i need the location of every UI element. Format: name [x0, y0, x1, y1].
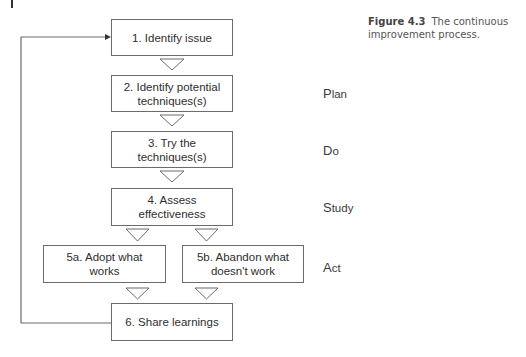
- step-assess-effectiveness: 4. Assess effectiveness: [111, 188, 233, 226]
- step-identify-issue: 1. Identify issue: [111, 19, 233, 56]
- down-arrow-1-2: [160, 59, 184, 70]
- phase-study: Study: [323, 200, 353, 215]
- figure-caption: Figure 4.3The continuous improvement pro…: [368, 15, 526, 41]
- down-arrow-2-3: [160, 115, 184, 126]
- down-arrow-4-5b: [195, 229, 218, 241]
- step-try-techniques: 3. Try the techniques(s): [111, 131, 233, 168]
- step-label: 5a. Adopt what works: [50, 250, 159, 278]
- phase-act: Act: [323, 260, 341, 275]
- step-adopt-what-works: 5a. Adopt what works: [43, 245, 166, 283]
- step-label: 4. Assess effectiveness: [118, 193, 226, 221]
- step-abandon-what-doesnt-work: 5b. Abandon what doesn't work: [182, 245, 304, 283]
- step-share-learnings: 6. Share learnings: [111, 303, 233, 341]
- down-arrow-4-5a: [126, 229, 149, 241]
- step-label: 3. Try the techniques(s): [118, 136, 226, 164]
- down-arrow-3-4: [160, 171, 184, 182]
- step-identify-techniques: 2. Identify potential techniques(s): [111, 75, 233, 112]
- flow-connectors: [0, 0, 526, 357]
- down-arrow-5a-6: [126, 288, 149, 299]
- down-arrow-5b-6: [195, 288, 218, 299]
- figure-number: Figure 4.3: [368, 16, 425, 27]
- step-label: 6. Share learnings: [125, 315, 218, 329]
- step-label: 5b. Abandon what doesn't work: [189, 250, 297, 278]
- phase-do: Do: [323, 143, 339, 158]
- step-label: 1. Identify issue: [132, 31, 212, 45]
- step-label: 2. Identify potential techniques(s): [118, 80, 226, 108]
- phase-plan: Plan: [323, 86, 347, 101]
